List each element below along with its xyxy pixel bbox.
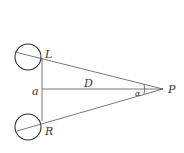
label-right-eye: R [44, 125, 53, 138]
label-distance: D [83, 77, 93, 90]
label-point: P [167, 83, 176, 96]
convergence-diagram: L R a D α P [0, 0, 184, 153]
label-left-eye: L [44, 48, 52, 61]
right-eye-circle [15, 114, 41, 140]
right-sight-line [17, 89, 163, 131]
left-eye-circle [15, 44, 41, 70]
label-angle: α [135, 89, 141, 98]
label-separation: a [32, 85, 39, 98]
